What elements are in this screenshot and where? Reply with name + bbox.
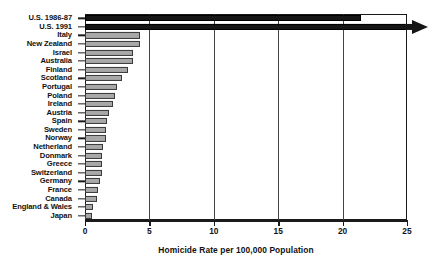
bar-rows: U.S. 1986-87U.S. 1991ItalyNew ZealandIsr… [0,0,448,264]
category-tick [78,164,85,165]
category-tick [78,146,85,147]
x-axis-title-text: Homicide Rate per 100,000 Population [158,245,313,255]
bar [85,127,106,133]
bar [85,15,361,21]
category-tick [78,172,85,173]
category-tick [78,86,85,87]
bar [85,161,102,167]
bar [85,75,122,81]
category-tick [78,138,85,139]
category-label: New Zealand [27,40,72,48]
x-axis-line [85,220,407,222]
category-tick [78,52,85,53]
category-tick [78,206,85,207]
x-axis-title: Homicide Rate per 100,000 Population [0,245,448,255]
bar [85,84,117,90]
bar [85,92,115,98]
bar [85,135,106,141]
category-tick [78,18,85,19]
category-tick [78,69,85,70]
category-label: Israel [53,49,72,57]
category-label: Portugal [42,83,72,91]
x-tick-label: 15 [274,227,283,235]
category-tick [78,78,85,79]
category-label: Japan [51,212,72,220]
bar [85,178,100,184]
bar [85,144,103,150]
category-label: Spain [52,117,72,125]
category-label: Scotland [41,75,72,83]
bar [85,187,98,193]
category-tick [78,35,85,36]
category-label: England & Wales [12,203,72,211]
bar [85,204,93,210]
category-label: Norway [45,135,72,143]
category-label: Sweden [44,126,72,134]
bar [85,41,140,47]
homicide-rate-bar-chart: U.S. 1986-87U.S. 1991ItalyNew ZealandIsr… [0,0,448,264]
x-tick-label: 5 [147,227,152,235]
category-label: Finland [46,66,72,74]
category-label: Poland [47,92,72,100]
bar [85,153,102,159]
category-label: France [48,186,72,194]
category-tick [78,129,85,130]
category-label: Australia [40,57,72,65]
category-label: Switzerland [31,169,72,177]
category-label: Canada [45,195,72,203]
category-tick [78,43,85,44]
bar [85,170,102,176]
category-tick [78,26,85,27]
bar [85,50,133,56]
category-tick [78,61,85,62]
category-label: Austria [47,109,72,117]
category-label: Greece [47,160,72,168]
bar [85,32,140,38]
category-tick [78,215,85,216]
category-tick [78,121,85,122]
x-tick-label: 20 [338,227,347,235]
category-label: Donmark [40,152,72,160]
category-tick [78,112,85,113]
x-tick-label: 10 [209,227,218,235]
x-tick-label: 0 [83,227,88,235]
category-tick [78,198,85,199]
bar [85,24,407,30]
category-tick [78,103,85,104]
category-tick [78,95,85,96]
bar [85,195,97,201]
category-tick [78,189,85,190]
bar [85,118,107,124]
category-label: Germany [40,178,72,186]
category-label: Italy [57,32,72,40]
bar [85,58,133,64]
bar [85,101,113,107]
bar-row: Japan [0,211,448,220]
bar [85,110,109,116]
category-label: U.S. 1986-87 [28,14,72,22]
x-tick-label: 25 [402,227,411,235]
category-tick [78,181,85,182]
bar [85,67,128,73]
category-label: U.S. 1991 [39,23,72,31]
bar [85,213,92,219]
category-label: Netherland [33,143,72,151]
category-tick [78,155,85,156]
category-label: Ireland [48,100,72,108]
